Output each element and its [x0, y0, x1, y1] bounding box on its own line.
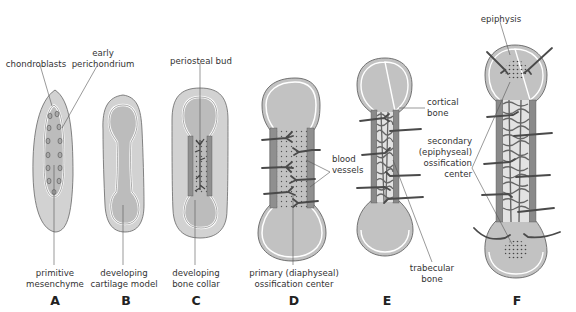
panel-letter-e: E	[383, 293, 392, 308]
label-blood: blood	[332, 154, 356, 165]
label-mesenchyme: mesenchyme	[26, 279, 84, 290]
label-epiphysis: epiphysis	[481, 14, 521, 25]
panel-e-illustration	[357, 58, 432, 262]
panel-c-illustration	[172, 63, 228, 265]
panel-letter-b: B	[121, 293, 131, 308]
label-periosteal-bud: periosteal bud	[170, 56, 232, 67]
label-center: center	[444, 169, 472, 180]
label-cartilage-model: cartilage model	[90, 279, 157, 290]
label-primary-diaphyseal: primary (diaphyseal)	[249, 268, 339, 279]
label-bone-collar: bone collar	[172, 279, 220, 290]
label-secondary: secondary	[427, 136, 472, 147]
secondary-ossification-center-bottom	[504, 240, 528, 260]
label-perichondrium: perichondrium	[72, 59, 135, 70]
panel-letter-d: D	[289, 293, 299, 308]
label-primitive: primitive	[36, 268, 74, 279]
panel-letter-a: A	[50, 293, 60, 308]
label-trabecular: trabecular	[410, 263, 454, 274]
label-developing: developing	[172, 268, 220, 279]
bone-collar	[188, 136, 193, 196]
ossification-diagram: chondroblasts early perichondrium primit…	[0, 0, 576, 312]
cortical-bone	[371, 110, 377, 203]
label-epiphyseal: (epiphyseal)	[419, 147, 472, 158]
panel-f-illustration	[472, 22, 560, 278]
label-vessels: vessels	[332, 165, 363, 176]
label-cortical: cortical	[427, 97, 459, 108]
panel-letter-c: C	[191, 293, 200, 308]
diagram-canvas	[0, 0, 576, 312]
label-chondroblasts: chondroblasts	[6, 59, 66, 70]
label-ossification: ossification	[424, 158, 472, 169]
label-bone: bone	[427, 108, 448, 119]
panel-a-illustration	[33, 65, 97, 265]
panel-b-illustration	[103, 95, 144, 265]
panel-d-illustration	[258, 78, 330, 265]
panel-letter-f: F	[513, 293, 522, 308]
label-ossification-center: ossification center	[255, 279, 334, 290]
label-bone: bone	[421, 274, 442, 285]
secondary-ossification-center-top	[505, 60, 527, 80]
label-developing: developing	[100, 268, 148, 279]
cortical-bone	[496, 100, 503, 222]
label-early: early	[92, 48, 114, 59]
primary-ossification-center	[277, 128, 307, 210]
